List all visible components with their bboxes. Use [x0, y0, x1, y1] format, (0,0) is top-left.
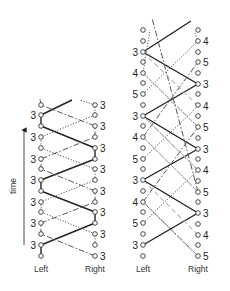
throw-label-right: 3 [203, 79, 209, 90]
beat-node-right [196, 114, 201, 119]
throw-label-right: 3 [100, 251, 106, 262]
beat-node-left [141, 28, 146, 33]
beat-node-left [141, 243, 146, 248]
beat-node-right [196, 157, 201, 162]
ball-path-solid [41, 100, 95, 256]
beat-node-left [141, 135, 146, 140]
beat-node-right [196, 179, 201, 184]
ball-path-dotted [143, 33, 198, 94]
throw-label-right: 3 [100, 186, 106, 197]
beat-node-left [39, 232, 44, 237]
throw-label-left: 4 [132, 197, 138, 208]
beat-node-right [93, 113, 98, 118]
ball-path-solid [143, 21, 198, 245]
diagram-siteswap-3: 333333333333333LeftRight [30, 99, 106, 274]
beat-node-left [141, 50, 146, 55]
beat-node-right [93, 200, 98, 205]
beat-node-right [196, 125, 201, 130]
beat-node-right [196, 147, 201, 152]
beat-node-left [39, 189, 44, 194]
beat-node-left [39, 200, 44, 205]
beat-node-right [196, 222, 201, 227]
beat-node-right [196, 103, 201, 108]
beat-node-left [39, 124, 44, 129]
throw-label-left: 3 [30, 132, 36, 143]
throw-label-left: 3 [30, 218, 36, 229]
throw-label-left: 3 [132, 175, 138, 186]
beat-node-left [39, 146, 44, 151]
beat-node-right [93, 254, 98, 259]
beat-node-left [141, 200, 146, 205]
throw-label-right: 3 [100, 121, 106, 132]
throw-label-right: 4 [203, 101, 209, 112]
beat-node-right [93, 103, 98, 108]
beat-node-left [39, 243, 44, 248]
beat-node-left [141, 178, 146, 183]
throw-label-right: 4 [203, 165, 209, 176]
beat-node-right [196, 39, 201, 44]
beat-node-left [39, 103, 44, 108]
beat-node-left [39, 113, 44, 118]
throw-label-right: 5 [203, 57, 209, 68]
beat-node-right [93, 221, 98, 226]
throw-label-right: 3 [100, 207, 106, 218]
throw-label-left: 3 [30, 240, 36, 251]
throw-label-right: 3 [203, 144, 209, 155]
throw-label-left: 5 [132, 218, 138, 229]
beat-node-right [93, 157, 98, 162]
beat-node-left [141, 124, 146, 129]
throw-label-left: 5 [132, 89, 138, 100]
throw-label-left: 3 [30, 110, 36, 121]
throw-label-left: 4 [132, 68, 138, 79]
beat-node-right [196, 50, 201, 55]
beat-node-left [141, 189, 146, 194]
beat-node-right [93, 124, 98, 129]
time-label: time [8, 178, 18, 194]
column-label-left: Left [136, 264, 151, 274]
beat-node-right [93, 167, 98, 172]
throw-label-left: 3 [30, 175, 36, 186]
beat-node-left [141, 92, 146, 97]
column-label-right: Right [85, 264, 105, 274]
beat-node-right [196, 82, 201, 87]
juggling-ladder-diagrams: time 333333333333333LeftRight 3453453453… [0, 0, 230, 291]
beat-node-left [39, 157, 44, 162]
throw-label-right: 3 [100, 229, 106, 240]
beat-node-left [141, 114, 146, 119]
beat-node-left [39, 210, 44, 215]
throw-label-right: 5 [203, 122, 209, 133]
beat-node-left [39, 135, 44, 140]
beat-node-right [196, 200, 201, 205]
throw-label-right: 3 [100, 164, 106, 175]
throw-label-left: 3 [132, 47, 138, 58]
beat-node-right [93, 189, 98, 194]
beat-node-left [141, 221, 146, 226]
ball-path-dashdot [152, 18, 198, 192]
beat-node-left [39, 178, 44, 183]
beat-node-right [93, 135, 98, 140]
beat-node-left [39, 167, 44, 172]
throw-label-left: 4 [132, 132, 138, 143]
throw-label-right: 3 [100, 143, 106, 154]
beat-node-right [93, 146, 98, 151]
column-label-left: Left [34, 264, 49, 274]
beat-node-right [196, 71, 201, 76]
beat-node-right [93, 178, 98, 183]
beat-node-left [39, 254, 44, 259]
beat-node-left [141, 71, 146, 76]
beat-node-left [39, 221, 44, 226]
throw-label-left: 3 [30, 197, 36, 208]
diagram-siteswap-453: 345345345345345345345LeftRight [132, 18, 209, 274]
beat-node-right [196, 211, 201, 216]
beat-node-right [196, 233, 201, 238]
throw-label-right: 4 [203, 36, 209, 47]
beat-node-right [196, 243, 201, 248]
beat-node-left [141, 232, 146, 237]
beat-node-right [93, 210, 98, 215]
beat-node-right [196, 60, 201, 65]
throw-label-right: 5 [203, 187, 209, 198]
throw-label-right: 3 [203, 208, 209, 219]
throw-label-left: 3 [30, 154, 36, 165]
throw-label-left: 5 [132, 154, 138, 165]
beat-node-right [196, 190, 201, 195]
